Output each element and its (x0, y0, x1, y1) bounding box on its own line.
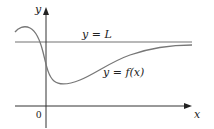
origin-label: 0 (36, 108, 42, 120)
graph-canvas: y y = L y = f(x) 0 x (0, 0, 214, 129)
y-axis-label: y (34, 3, 42, 16)
x-axis-arrow-icon (184, 103, 192, 109)
asymptote-label: y = L (81, 28, 112, 41)
curve-label: y = f(x) (102, 66, 144, 79)
y-axis-arrow-icon (43, 7, 49, 15)
figure: y y = L y = f(x) 0 x (0, 0, 214, 129)
x-axis-label: x (194, 108, 201, 121)
